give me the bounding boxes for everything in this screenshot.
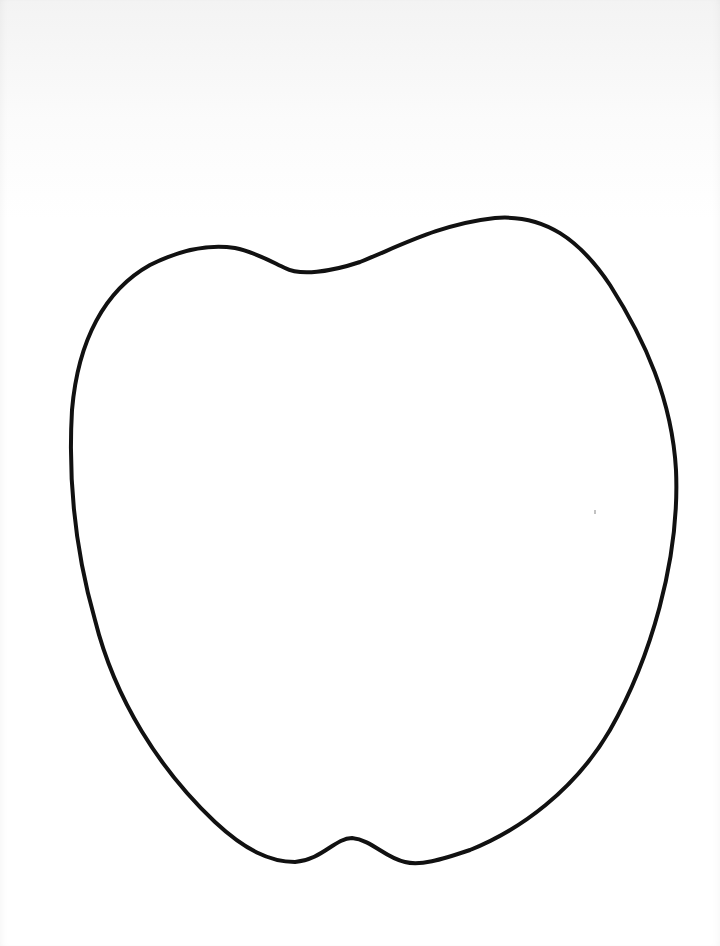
- apple-outline-icon: [0, 0, 720, 946]
- scan-speck: [594, 510, 596, 514]
- scanned-page: [0, 0, 720, 946]
- apple-outline-path: [71, 218, 676, 864]
